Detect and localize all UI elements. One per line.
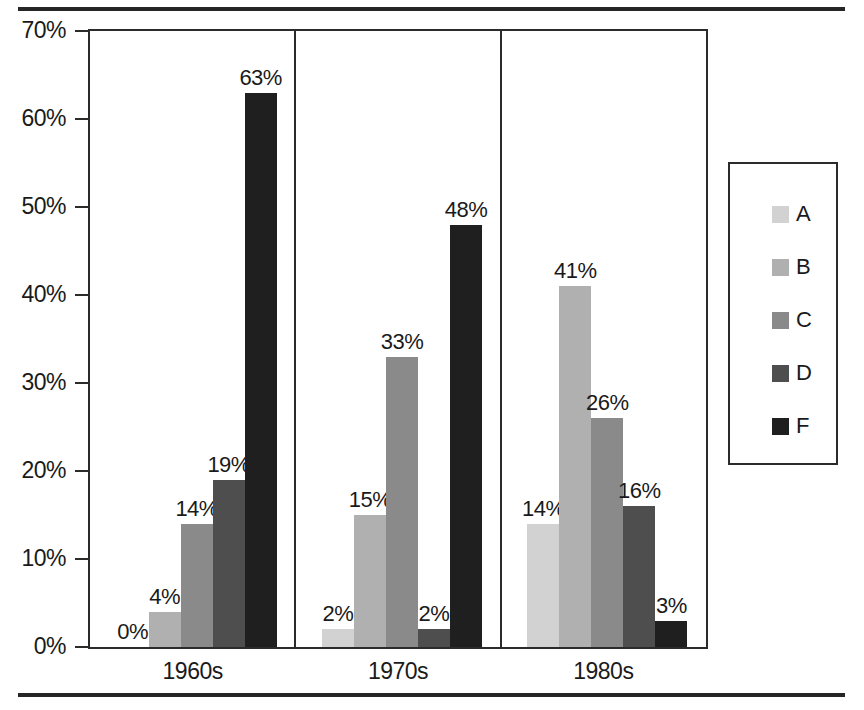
x-axis-category-label: 1970s	[368, 658, 428, 684]
bar[interactable]: 48%	[450, 27, 482, 647]
bar-value-label: 19%	[207, 453, 250, 477]
legend-item-label: C	[796, 309, 811, 331]
legend-item-label: F	[796, 415, 809, 437]
legend-swatch-icon	[772, 312, 789, 329]
bar[interactable]: 63%	[245, 27, 277, 647]
bar-value-label: 16%	[618, 479, 661, 503]
bar-rect	[623, 506, 655, 647]
y-axis: 70%60%50%40%30%20%10%0%	[0, 29, 88, 649]
bar-value-label: 2%	[323, 602, 354, 626]
bar[interactable]: 41%	[559, 27, 591, 647]
bar[interactable]: 14%	[527, 27, 559, 647]
bar-value-label: 48%	[445, 198, 488, 222]
bar-value-label: 14%	[175, 497, 218, 521]
bar-value-label: 4%	[149, 585, 180, 609]
legend-item[interactable]: F	[772, 416, 809, 436]
bar[interactable]: 2%	[322, 27, 354, 647]
bar[interactable]: 16%	[623, 27, 655, 647]
bar-value-label: 2%	[419, 602, 450, 626]
bar[interactable]: 2%	[418, 27, 450, 647]
bar[interactable]: 4%	[149, 27, 181, 647]
y-axis-tick-mark	[75, 382, 88, 384]
bar-rect	[655, 621, 687, 647]
legend-item-label: D	[796, 362, 811, 384]
bar[interactable]: 0%	[117, 27, 149, 647]
bar-rect	[418, 629, 450, 647]
legend-item[interactable]: D	[772, 363, 811, 383]
y-axis-tick-mark	[75, 30, 88, 32]
bar-value-label: 3%	[656, 594, 687, 618]
bar[interactable]: 33%	[386, 27, 418, 647]
x-axis-category-label: 1960s	[163, 658, 223, 684]
bar-group: 0%4%14%19%63%	[90, 31, 295, 647]
bar-rect	[322, 629, 354, 647]
plot-area: 0%4%14%19%63%2%15%33%2%48%14%41%26%16%3%	[88, 29, 708, 649]
y-axis-tick-label: 60%	[21, 105, 66, 131]
bar-rect	[245, 93, 277, 647]
x-axis-category-label: 1980s	[573, 658, 633, 684]
bar-rect	[386, 357, 418, 647]
y-axis-tick-mark	[75, 206, 88, 208]
y-axis-tick-mark	[75, 558, 88, 560]
y-axis-tick-label: 50%	[21, 193, 66, 219]
bar-rect	[450, 225, 482, 647]
bar-rect	[149, 612, 181, 647]
bar-rect	[181, 524, 213, 647]
bar[interactable]: 14%	[181, 27, 213, 647]
y-axis-tick-mark	[75, 294, 88, 296]
y-axis-tick-label: 70%	[21, 17, 66, 43]
y-axis-tick-mark	[75, 646, 88, 648]
y-axis-tick-label: 20%	[21, 457, 66, 483]
bar-value-label: 15%	[349, 488, 392, 512]
bar-group: 14%41%26%16%3%	[501, 31, 706, 647]
y-axis-tick-label: 40%	[21, 281, 66, 307]
bar-value-label: 63%	[239, 66, 282, 90]
top-divider-rule	[18, 7, 845, 11]
legend-swatch-icon	[772, 259, 789, 276]
bar[interactable]: 26%	[591, 27, 623, 647]
y-axis-tick-mark	[75, 470, 88, 472]
chart-page: 70%60%50%40%30%20%10%0% 0%4%14%19%63%2%1…	[0, 0, 864, 710]
y-axis-tick-mark	[75, 118, 88, 120]
legend-swatch-icon	[772, 418, 789, 435]
bar-group: 2%15%33%2%48%	[295, 31, 500, 647]
bar-rect	[559, 286, 591, 647]
y-axis-tick-label: 30%	[21, 369, 66, 395]
legend-swatch-icon	[772, 206, 789, 223]
legend-item[interactable]: C	[772, 310, 811, 330]
legend-item[interactable]: B	[772, 257, 810, 277]
bar-value-label: 26%	[586, 391, 629, 415]
bottom-divider-rule	[18, 693, 845, 697]
bar-value-label: 0%	[117, 620, 148, 644]
y-axis-tick-label: 10%	[21, 545, 66, 571]
bar[interactable]: 19%	[213, 27, 245, 647]
bar-rect	[527, 524, 559, 647]
legend-item[interactable]: A	[772, 204, 810, 224]
bar-value-label: 14%	[522, 497, 565, 521]
legend-swatch-icon	[772, 365, 789, 382]
bar-value-label: 33%	[381, 330, 424, 354]
chart-legend: ABCDF	[728, 162, 838, 465]
bar-rect	[354, 515, 386, 647]
y-axis-tick-label: 0%	[34, 633, 66, 659]
bar[interactable]: 3%	[655, 27, 687, 647]
legend-item-label: A	[796, 203, 810, 225]
legend-item-label: B	[796, 256, 810, 278]
bar-rect	[591, 418, 623, 647]
bar-rect	[213, 480, 245, 647]
bar-value-label: 41%	[554, 259, 597, 283]
